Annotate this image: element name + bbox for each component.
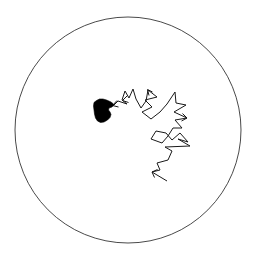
random-walk-figure <box>0 0 256 263</box>
figure-root <box>0 0 256 263</box>
figure-background <box>0 0 256 263</box>
